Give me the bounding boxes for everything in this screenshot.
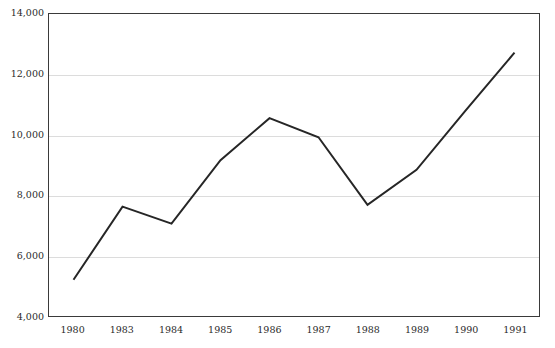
y-tick-label: 14,000 xyxy=(0,8,44,18)
x-tick-label: 1990 xyxy=(454,324,478,336)
x-tick-label: 1988 xyxy=(356,324,380,336)
y-tick-label: 4,000 xyxy=(0,312,44,322)
y-tick-label: 10,000 xyxy=(0,130,44,140)
x-tick-label: 1991 xyxy=(503,324,527,336)
x-tick-label: 1980 xyxy=(61,324,85,336)
x-tick-label: 1989 xyxy=(405,324,429,336)
y-axis: 14,00012,00010,0008,0006,0004,000 xyxy=(0,0,44,348)
x-axis: 1980198319841985198619871988198919901991 xyxy=(48,324,540,344)
x-tick-label: 1983 xyxy=(110,324,134,336)
x-tick-label: 1984 xyxy=(159,324,183,336)
x-tick-label: 1986 xyxy=(257,324,281,336)
chart-figure: 14,00012,00010,0008,0006,0004,000 198019… xyxy=(0,0,555,348)
x-tick-label: 1985 xyxy=(208,324,232,336)
x-tick-label: 1987 xyxy=(307,324,331,336)
plot-area xyxy=(48,13,540,317)
data-series-line xyxy=(49,14,539,316)
series-polyline xyxy=(74,53,515,280)
y-tick-label: 6,000 xyxy=(0,251,44,261)
y-tick-label: 8,000 xyxy=(0,190,44,200)
y-tick-label: 12,000 xyxy=(0,69,44,79)
